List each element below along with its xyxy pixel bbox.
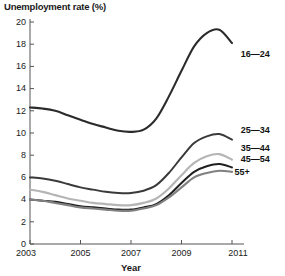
x-axis-title: Year xyxy=(0,262,262,273)
series-label: 55+ xyxy=(235,167,250,177)
y-tick-label: 14 xyxy=(16,83,26,93)
y-tick-label: 8 xyxy=(21,150,26,160)
series-label: 16—24 xyxy=(241,49,270,59)
series-lines-group xyxy=(30,29,232,211)
x-tick-label: 2003 xyxy=(16,248,36,258)
series-label: 25—34 xyxy=(241,125,270,135)
y-tick-label: 16 xyxy=(16,61,26,71)
y-axis-tick-group: 02468101214161820 xyxy=(16,17,34,249)
x-tick-label: 2007 xyxy=(121,248,141,258)
y-tick-label: 4 xyxy=(21,194,26,204)
series-line xyxy=(30,154,232,205)
y-tick-label: 18 xyxy=(16,39,26,49)
y-tick-label: 20 xyxy=(16,17,26,27)
series-labels-group: 16—2425—3435—4445—5455+ xyxy=(235,49,270,178)
series-label: 35—44 xyxy=(241,143,270,153)
series-line xyxy=(30,134,232,193)
y-tick-label: 10 xyxy=(16,128,26,138)
series-line xyxy=(30,29,232,132)
y-tick-label: 6 xyxy=(21,172,26,182)
series-label: 45—54 xyxy=(241,154,270,164)
y-tick-label: 12 xyxy=(16,106,26,116)
x-tick-label: 2011 xyxy=(228,248,247,258)
x-axis-tick-group: 20032005200720092011 xyxy=(16,240,248,258)
x-tick-label: 2009 xyxy=(171,248,191,258)
unemployment-rate-line-chart: Unemployment rate (%) 02468101214161820 … xyxy=(0,0,285,276)
y-tick-label: 2 xyxy=(21,217,26,227)
x-tick-label: 2005 xyxy=(70,248,90,258)
chart-plot-area: 02468101214161820 20032005200720092011 1… xyxy=(0,0,285,276)
